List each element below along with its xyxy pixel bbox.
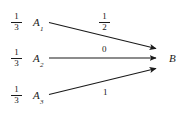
node-label-a3: A3 xyxy=(33,90,43,104)
prior-a1-numerator: 1 xyxy=(11,12,22,22)
node-label-b: B xyxy=(169,53,176,64)
edge-a1-numerator: 1 xyxy=(99,12,110,22)
node-a2-subscript: 2 xyxy=(40,61,44,69)
edge-label-a2-b: 0 xyxy=(102,45,107,54)
node-label-a2: A2 xyxy=(33,53,43,67)
prior-a3-denominator: 3 xyxy=(11,96,22,106)
prior-a3-numerator: 1 xyxy=(11,85,22,95)
prior-probability-a1: 1 3 xyxy=(11,12,22,32)
edge-label-a3-b: 1 xyxy=(103,88,108,97)
prior-a2-denominator: 3 xyxy=(11,59,22,69)
prior-probability-a3: 1 3 xyxy=(11,85,22,105)
node-b-name: B xyxy=(169,52,176,64)
node-a3-subscript: 3 xyxy=(40,98,44,106)
edge-label-a1-b: 1 2 xyxy=(99,12,110,32)
probability-tree-diagram: 1 3 1 3 1 3 A1 A2 A3 B 1 2 0 1 xyxy=(0,0,189,117)
diagram-canvas xyxy=(0,0,189,117)
node-a1-subscript: 1 xyxy=(40,25,44,33)
prior-a1-denominator: 3 xyxy=(11,23,22,33)
edge-a1-denominator: 2 xyxy=(99,23,110,33)
node-a1-name: A xyxy=(33,16,40,28)
prior-a2-numerator: 1 xyxy=(11,48,22,58)
node-label-a1: A1 xyxy=(33,17,43,31)
prior-probability-a2: 1 3 xyxy=(11,48,22,68)
node-a2-name: A xyxy=(33,52,40,64)
node-a3-name: A xyxy=(33,89,40,101)
